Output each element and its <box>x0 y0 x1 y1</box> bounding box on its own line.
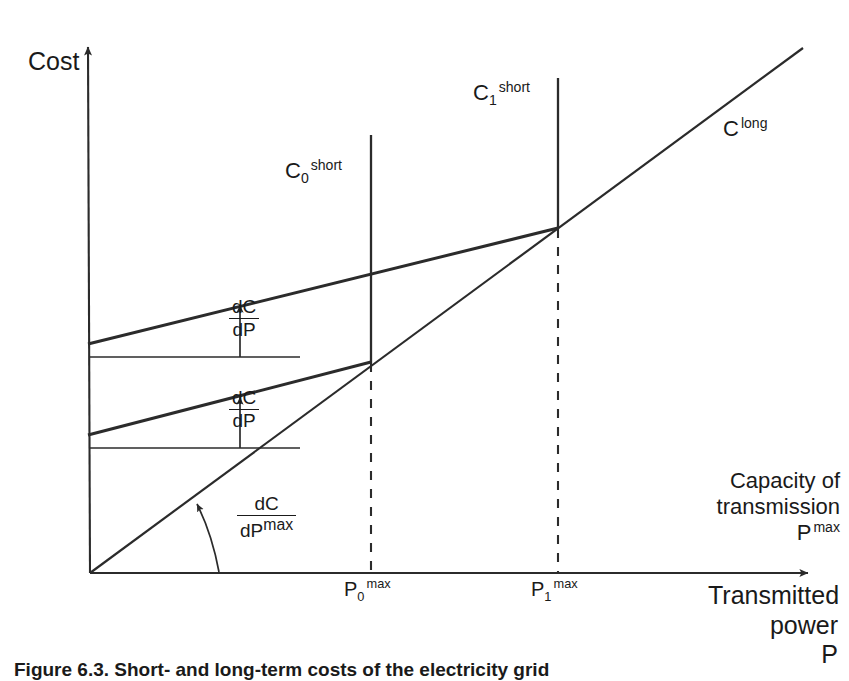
angle-slope-numerator: dC <box>237 494 296 515</box>
figure-caption: Figure 6.3. Short- and long-term costs o… <box>14 659 549 681</box>
curve-label-c1-short: C1short <box>473 80 530 106</box>
c0-short-subscript: 0 <box>301 170 309 186</box>
figure-container: Cost Capacity of transmission Pmax Trans… <box>0 0 849 681</box>
y-axis-title: Cost <box>28 47 79 77</box>
slope-numerator-lower: dC <box>229 388 259 409</box>
p0-superscript: max <box>366 576 390 591</box>
p1-subscript: 1 <box>544 589 551 604</box>
c1-short-subscript: 1 <box>489 92 497 108</box>
capacity-axis-title: Capacity of transmission Pmax <box>668 468 840 546</box>
p0-subscript: 0 <box>357 589 364 604</box>
angle-slope-denominator: dPmax <box>237 515 296 541</box>
curve-c1-short <box>88 228 558 344</box>
c0-short-superscript: short <box>311 157 342 173</box>
curve-label-c0-short: C0short <box>285 158 342 184</box>
angle-slope-denominator-base: dP <box>240 520 263 541</box>
y-axis <box>88 47 90 573</box>
capacity-symbol: P <box>797 520 812 545</box>
slope-annotation-upper: dC dP <box>229 297 259 340</box>
x-tick-label-p1-max: P1max <box>531 578 578 602</box>
slope-numerator-upper: dC <box>229 297 259 318</box>
x-title-line-1: Transmitted <box>708 581 839 609</box>
p0-base: P <box>344 578 357 600</box>
x-axis-title: Transmitted power P <box>708 581 838 670</box>
cost-capacity-diagram <box>0 0 849 681</box>
slope-denominator-upper: dP <box>229 318 259 340</box>
slope-annotation-lower: dC dP <box>229 388 259 431</box>
x-title-line-3: P <box>821 640 838 668</box>
angle-slope-annotation: dC dPmax <box>237 494 296 541</box>
x-title-line-2: power <box>770 611 838 639</box>
p1-base: P <box>531 578 544 600</box>
angle-arc-marker <box>197 504 219 572</box>
c1-short-superscript: short <box>499 79 530 95</box>
slope-denominator-lower: dP <box>229 409 259 431</box>
angle-slope-denominator-superscript: max <box>263 516 293 533</box>
c1-short-base: C <box>473 80 489 105</box>
x-tick-label-p0-max: P0max <box>344 578 391 602</box>
c0-short-base: C <box>285 158 301 183</box>
p1-superscript: max <box>553 576 577 591</box>
c-long-superscript: long <box>741 115 768 131</box>
capacity-line-2: transmission <box>717 494 840 519</box>
c-long-base: C <box>723 116 739 141</box>
capacity-superscript: max <box>813 519 840 535</box>
capacity-line-1: Capacity of <box>730 468 840 493</box>
curve-label-c-long: Clong <box>723 116 768 142</box>
